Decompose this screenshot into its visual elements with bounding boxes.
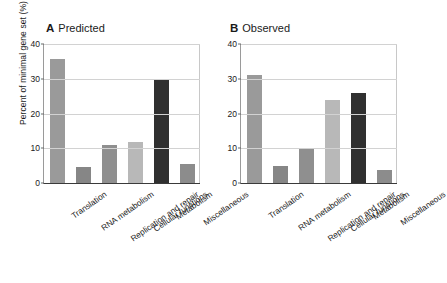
- plot-area-observed: TranslationRNA metabolismReplication and…: [240, 44, 397, 184]
- panel-observed: BObserved TranslationRNA metabolismRepli…: [204, 0, 408, 283]
- plot-area-predicted: TranslationRNA metabolismReplication and…: [43, 44, 200, 184]
- y-tick-mark-30: [41, 78, 44, 79]
- panel-predicted: APredicted Percent of minimal gene set (…: [0, 0, 204, 283]
- gridline-40: [44, 44, 200, 45]
- panel-b-heading: BObserved: [230, 22, 290, 35]
- y-tick-mark-20: [41, 113, 44, 114]
- gridline-10: [44, 148, 200, 149]
- bar: [299, 149, 314, 183]
- gridline-20: [241, 114, 397, 115]
- y-tick-mark-20: [238, 113, 241, 114]
- gridline-40: [241, 44, 397, 45]
- bar: [102, 145, 117, 183]
- y-tick-mark-0: [41, 183, 44, 184]
- gridline-20: [44, 114, 200, 115]
- y-tick-mark-30: [238, 78, 241, 79]
- panel-b-letter: B: [230, 22, 238, 34]
- x-tick-label: Translation: [266, 189, 305, 221]
- panel-a-letter: A: [46, 22, 54, 34]
- panel-b-title: Observed: [242, 22, 290, 34]
- x-axis-labels-observed: TranslationRNA metabolismReplication and…: [241, 183, 397, 278]
- bar: [247, 75, 262, 183]
- gridline-30: [241, 79, 397, 80]
- bar: [273, 166, 288, 183]
- x-axis-labels-predicted: TranslationRNA metabolismReplication and…: [44, 183, 200, 278]
- bar: [377, 170, 392, 183]
- bar: [76, 167, 91, 183]
- y-tick-mark-10: [41, 148, 44, 149]
- panel-a-title: Predicted: [58, 22, 104, 34]
- y-axis-title: Percent of minimal gene set (%): [18, 0, 28, 138]
- y-tick-mark-10: [238, 148, 241, 149]
- bar: [50, 59, 65, 183]
- panel-a-heading: APredicted: [46, 22, 105, 35]
- bar: [154, 79, 169, 183]
- bar: [180, 164, 195, 183]
- bar: [351, 93, 366, 183]
- gridline-10: [241, 148, 397, 149]
- y-tick-mark-40: [41, 44, 44, 45]
- gridline-30: [44, 79, 200, 80]
- y-tick-mark-40: [238, 44, 241, 45]
- x-tick-label: Translation: [69, 189, 108, 221]
- y-tick-mark-0: [238, 183, 241, 184]
